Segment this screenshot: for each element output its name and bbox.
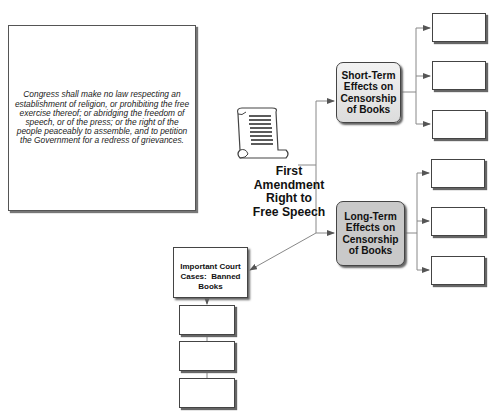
first-amendment-quote-box: Congress shall make no law respecting an… [8, 25, 196, 211]
title-line: Amendment [247, 179, 331, 193]
court-case-box-3[interactable] [179, 378, 235, 408]
central-topic-title: First Amendment Right to Free Speech [247, 165, 331, 219]
node-label-line: Cases: Banned [180, 272, 240, 282]
long-term-effect-box-3[interactable] [431, 256, 485, 285]
node-label-line: Books [180, 282, 240, 292]
node-label-line: Short-Term [340, 70, 396, 81]
scroll-icon [232, 104, 292, 162]
long-term-effect-box-1[interactable] [431, 159, 485, 188]
short-term-effect-box-2[interactable] [432, 61, 486, 90]
node-label-line: Censorship [340, 93, 396, 104]
node-label-line: of Books [342, 245, 398, 256]
short-term-effects-node[interactable]: Short-Term Effects on Censorship of Book… [336, 62, 401, 123]
court-cases-node[interactable]: Important Court Cases: Banned Books [173, 247, 248, 298]
court-case-box-2[interactable] [179, 341, 235, 371]
node-label-line: Long-Term [342, 211, 398, 222]
court-case-box-1[interactable] [179, 305, 235, 335]
node-label-line: Censorship [342, 234, 398, 245]
title-line: Right to [247, 192, 331, 206]
quote-text: Congress shall make no law respecting an… [13, 90, 191, 145]
node-label-line: Important Court [180, 262, 240, 272]
node-label-line: Effects on [340, 81, 396, 92]
long-term-effects-node[interactable]: Long-Term Effects on Censorship of Books [336, 201, 405, 266]
node-label-line: of Books [340, 104, 396, 115]
short-term-effect-box-1[interactable] [432, 13, 486, 42]
title-line: Free Speech [247, 206, 331, 220]
title-line: First [247, 165, 331, 179]
long-term-effect-box-2[interactable] [431, 207, 485, 236]
short-term-effect-box-3[interactable] [432, 110, 486, 139]
node-label-line: Effects on [342, 222, 398, 233]
